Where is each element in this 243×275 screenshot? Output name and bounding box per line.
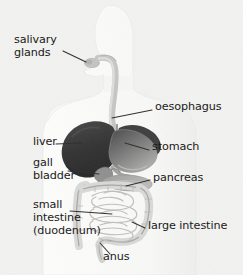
label-stomach: stomach	[152, 140, 199, 153]
label-large-intestine: large intestine	[148, 219, 227, 232]
label-gall-bladder: gall bladder	[33, 156, 75, 182]
label-pancreas: pancreas	[153, 171, 203, 184]
label-salivary-glands: salivary glands	[14, 33, 57, 59]
label-small-intestine: small intestine (duodenum)	[33, 198, 101, 238]
digestive-system-diagram: salivary glands oesophagus liver stomach…	[0, 0, 243, 275]
label-liver: liver	[33, 135, 57, 148]
label-oesophagus: oesophagus	[155, 100, 221, 113]
label-anus: anus	[103, 250, 129, 263]
anus-organ	[99, 245, 102, 260]
